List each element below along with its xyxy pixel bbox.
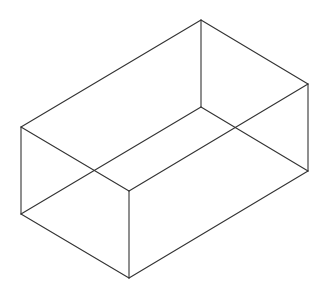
edge-bottom-back-to-bottom-left — [21, 107, 201, 214]
wireframe-box-diagram — [0, 0, 327, 290]
edge-top-back-to-top-right — [201, 20, 308, 84]
edge-bottom-right-to-bottom-front — [129, 171, 308, 278]
edge-top-right-to-top-front — [129, 84, 308, 191]
edge-top-back-to-top-left — [21, 20, 201, 127]
box-edges — [21, 20, 308, 278]
edge-bottom-left-to-bottom-front — [21, 214, 129, 278]
